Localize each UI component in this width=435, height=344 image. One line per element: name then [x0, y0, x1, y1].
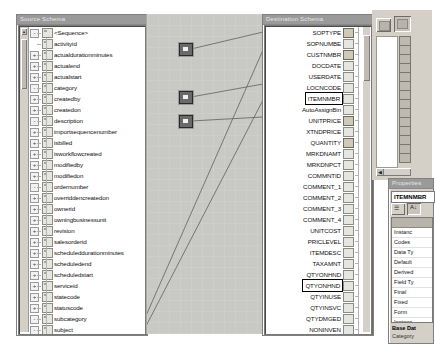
tree-item[interactable]: +actualdurationminutes [30, 49, 145, 60]
properties-sort-buttons: ☰ A↓ [391, 203, 431, 216]
tree-item[interactable]: +serviceid [30, 280, 145, 291]
tree-item[interactable]: +createdby [30, 93, 145, 104]
destination-item[interactable]: QTYINSVC [265, 302, 363, 313]
property-row[interactable]: Final [392, 288, 432, 298]
destination-item[interactable]: UNITCOST [265, 225, 363, 236]
destination-item[interactable]: COMMENT_3 [265, 203, 363, 214]
destination-item[interactable]: MRKDNAMT [265, 148, 363, 159]
property-row[interactable]: Codes [392, 238, 432, 248]
destination-item[interactable]: MRKDNPCT [265, 159, 363, 170]
sort-alphabetical-button[interactable]: A↓ [407, 203, 421, 215]
destination-item[interactable]: DOCDATE [265, 60, 363, 71]
tree-item[interactable]: -subcategory [30, 313, 145, 324]
tree-item[interactable]: -description [30, 115, 145, 126]
source-schema-scrollbar[interactable]: ▲ [20, 27, 29, 332]
tree-item[interactable]: +revision [30, 225, 145, 236]
tree-connector [355, 175, 359, 176]
destination-item[interactable]: AutoAssignBin [265, 104, 363, 115]
destination-item[interactable]: QTYDMGED [265, 313, 363, 324]
destination-item[interactable]: CUSTNMBR [265, 49, 363, 60]
properties-description-title: Base Dat [391, 324, 431, 332]
tree-item[interactable]: +actualend [30, 60, 145, 71]
destination-item-label: QTYDMGED [306, 313, 341, 324]
property-row[interactable]: Default [392, 258, 432, 268]
property-row[interactable]: Derived [392, 268, 432, 278]
property-name: Fixed [394, 299, 408, 305]
tree-item[interactable]: +modifiedon [30, 170, 145, 181]
destination-item[interactable]: NONINVEN [265, 324, 363, 335]
destination-item[interactable]: QUANTITY [265, 137, 363, 148]
functoid-node-3[interactable] [179, 115, 193, 128]
properties-object-combo[interactable]: ITEMNMBR [391, 191, 435, 203]
toolbox-button[interactable] [376, 18, 391, 32]
tree-item[interactable]: +scheduleddurationminutes [30, 247, 145, 258]
destination-item[interactable]: XTNDPRICE [265, 126, 363, 137]
tool-scroll-left-arrow[interactable]: ◀ [376, 168, 384, 176]
tree-item[interactable]: +scheduledstart [30, 269, 145, 280]
destination-schema-tree[interactable]: SOPTYPESOPNUMBECUSTNMBRDOCDATEUSERDATELO… [264, 25, 372, 335]
source-schema-tree[interactable]: ▲ -<Sequence>activityid+actualdurationmi… [18, 25, 146, 335]
destination-item[interactable]: UNITPRICE [265, 115, 363, 126]
tree-item[interactable]: +modifiedby [30, 159, 145, 170]
tree-connector [37, 253, 41, 254]
tree-item[interactable]: +statuscode [30, 302, 145, 313]
tree-item[interactable]: +isbilled [30, 137, 145, 148]
mapping-canvas[interactable] [146, 14, 263, 334]
tree-connector [37, 209, 41, 210]
destination-item[interactable]: SOPTYPE [265, 27, 363, 38]
destination-item[interactable]: COMMNTID [265, 170, 363, 181]
tree-item[interactable]: +salesorderid [30, 236, 145, 247]
tree-item[interactable]: +actualstart [30, 71, 145, 82]
property-row[interactable]: Instanc [392, 228, 432, 238]
properties-grid[interactable]: InstancCodesData TyDefaultDerivedField T… [391, 217, 433, 323]
properties-button[interactable] [394, 16, 411, 32]
functoid-node-2[interactable] [179, 91, 193, 104]
tree-item[interactable]: +scheduledend [30, 258, 145, 269]
tree-item[interactable]: -category [30, 82, 145, 93]
destination-schema-scrollbar[interactable] [363, 27, 370, 332]
sort-by-category-button[interactable]: ☰ [391, 203, 405, 215]
tree-item[interactable]: +createdon [30, 104, 145, 115]
destination-item-label: COMMENT_3 [303, 203, 341, 214]
tree-connector [37, 198, 41, 199]
tree-item[interactable]: +overriddencreatedon [30, 192, 145, 203]
destination-item[interactable]: USERDATE [265, 71, 363, 82]
tool-list-hscrollbar[interactable]: ◀ [376, 168, 411, 176]
palette-functoid-icon[interactable] [399, 153, 411, 163]
functoid-palette[interactable] [398, 36, 411, 166]
destination-item[interactable]: SOPNUMBE [265, 38, 363, 49]
destination-scroll-thumb[interactable] [363, 35, 370, 81]
tree-item[interactable]: +importsequencenumber [30, 126, 145, 137]
property-row[interactable]: Form [392, 308, 432, 318]
destination-item[interactable]: QTYONHND [265, 280, 363, 291]
tool-list-area[interactable] [376, 36, 398, 168]
destination-item[interactable]: PRICLEVEL [265, 236, 363, 247]
functoid-node-1[interactable] [179, 43, 193, 56]
destination-item[interactable]: QTYINUSE [265, 291, 363, 302]
property-name: Derived [394, 269, 413, 275]
tree-item[interactable]: -subject [30, 324, 145, 335]
tree-item[interactable]: +statecode [30, 291, 145, 302]
destination-item[interactable]: COMMENT_4 [265, 214, 363, 225]
schema-node-icon [42, 204, 53, 214]
source-scroll-up-button[interactable]: ▲ [21, 28, 27, 35]
property-row[interactable]: Fixed [392, 298, 432, 308]
schema-node-icon [343, 149, 354, 159]
source-scroll-thumb[interactable] [21, 39, 27, 89]
schema-node-icon [343, 39, 354, 49]
tree-item[interactable]: +owningbusinessunit [30, 214, 145, 225]
property-row[interactable]: Data Ty [392, 248, 432, 258]
schema-node-icon [343, 325, 354, 335]
tree-item[interactable]: +isworkflowcreated [30, 148, 145, 159]
destination-item[interactable]: COMMENT_1 [265, 181, 363, 192]
destination-item[interactable]: COMMENT_2 [265, 192, 363, 203]
tree-item[interactable]: -ordernumber [30, 181, 145, 192]
property-row[interactable]: Instanc [392, 318, 432, 323]
tree-item[interactable]: +ownerid [30, 203, 145, 214]
property-row[interactable]: Field Ty [392, 278, 432, 288]
destination-item[interactable]: TAXAMNT [265, 258, 363, 269]
destination-item[interactable]: ITEMNMBR [265, 93, 363, 104]
tree-root-node[interactable]: -<Sequence> [30, 27, 145, 38]
tree-item[interactable]: activityid [30, 38, 145, 49]
destination-item[interactable]: ITEMDESC [265, 247, 363, 258]
